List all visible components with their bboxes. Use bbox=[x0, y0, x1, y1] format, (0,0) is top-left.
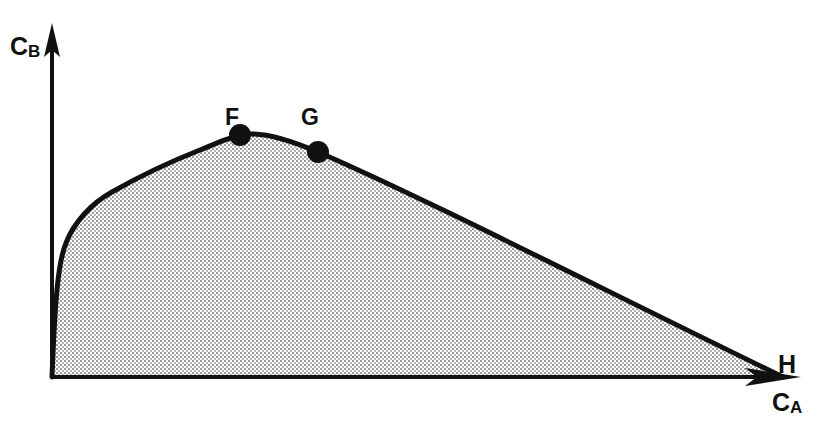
x-axis-label-subscript: A bbox=[790, 398, 802, 417]
point-label-g: G bbox=[301, 106, 319, 129]
x-axis-label-main: C bbox=[772, 388, 790, 416]
y-axis-label-main: C bbox=[10, 32, 28, 60]
y-axis-label: CB bbox=[10, 34, 41, 59]
figure-canvas: CB CA H F G bbox=[0, 0, 824, 425]
envelope-fill bbox=[52, 134, 783, 377]
point-marker-g bbox=[307, 141, 329, 163]
point-label-f: F bbox=[225, 106, 239, 129]
phase-envelope-chart bbox=[0, 0, 824, 425]
y-axis-label-subscript: B bbox=[28, 42, 40, 61]
point-label-h: H bbox=[778, 352, 796, 377]
x-axis-label: CA bbox=[772, 390, 803, 415]
